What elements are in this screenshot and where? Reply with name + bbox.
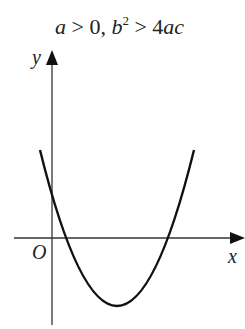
y-axis-arrow-icon <box>46 50 58 65</box>
condition-title: a > 0, b2 > 4ac <box>55 13 184 39</box>
parabola-curve <box>40 150 194 306</box>
x-axis-arrow-icon <box>230 232 245 244</box>
origin-label: O <box>32 241 46 263</box>
x-axis-label: x <box>227 245 237 267</box>
parabola-diagram: a > 0, b2 > 4ac y x O <box>0 0 245 329</box>
y-axis-label: y <box>30 46 41 69</box>
